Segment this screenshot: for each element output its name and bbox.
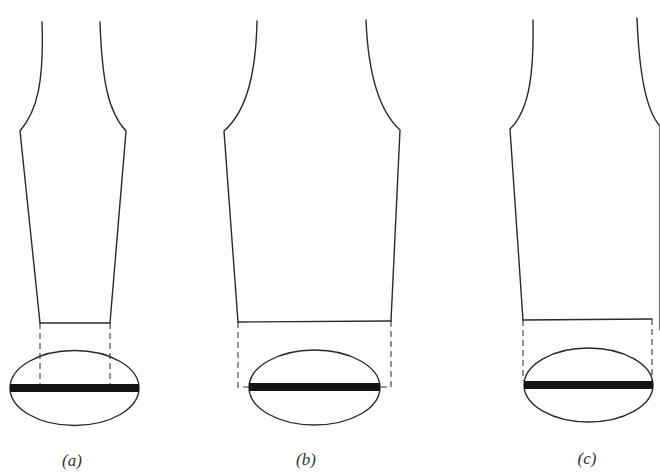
figure-a-cross-section-bar [10,384,139,392]
figure-b-bottom-edge [238,321,391,322]
figure-b-caption: (b) [296,450,316,470]
diagram-canvas [0,0,660,474]
background [0,0,660,474]
figure-b-cross-section-bar [249,383,380,391]
figure-c-caption: (c) [578,449,597,469]
figure-c-cross-section-bar [524,381,653,389]
figure-c-bottom-edge [523,319,652,320]
figure-a-caption: (a) [62,451,82,471]
